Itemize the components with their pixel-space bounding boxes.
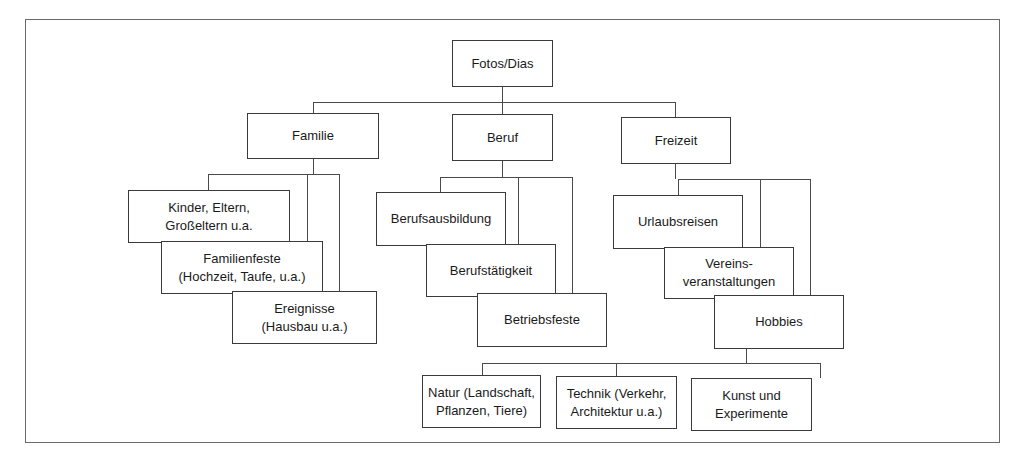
connector <box>810 179 811 295</box>
connector <box>760 179 761 247</box>
node-betriebsfeste: Betriebsfeste <box>477 293 607 347</box>
node-berufstaetigkeit: Berufstätigkeit <box>426 244 556 297</box>
connector <box>820 363 821 378</box>
connector <box>616 363 617 376</box>
connector <box>307 174 308 241</box>
connector <box>678 179 811 180</box>
node-ereignisse: Ereignisse (Hausbau u.a.) <box>232 291 377 344</box>
connector <box>313 158 314 174</box>
connector <box>518 177 519 244</box>
connector <box>746 348 747 363</box>
connector <box>502 161 503 177</box>
node-berufsausbildung: Berufsausbildung <box>376 192 506 246</box>
connector <box>482 363 821 364</box>
connector <box>675 102 676 117</box>
node-kunst: Kunst und Experimente <box>691 378 812 431</box>
node-familienfeste: Familienfeste (Hochzeit, Taufe, u.a.) <box>161 241 323 294</box>
connector <box>313 102 675 103</box>
node-technik: Technik (Verkehr, Architektur u.a.) <box>556 376 677 429</box>
connector <box>208 174 209 190</box>
connector <box>208 174 340 175</box>
node-natur: Natur (Landschaft, Pflanzen, Tiere) <box>422 375 541 428</box>
node-hobbies: Hobbies <box>714 295 844 349</box>
connector <box>675 163 676 179</box>
node-vereinsveranstaltungen: Vereins- veranstaltungen <box>664 247 794 299</box>
connector <box>440 177 441 192</box>
node-beruf: Beruf <box>452 114 553 161</box>
node-fotos-dias: Fotos/Dias <box>452 40 553 87</box>
connector <box>339 174 340 291</box>
connector <box>440 177 573 178</box>
node-kinder-eltern: Kinder, Eltern, Großeltern u.a. <box>128 190 290 243</box>
connector <box>678 179 679 195</box>
node-familie: Familie <box>247 113 379 159</box>
connector <box>482 363 483 375</box>
connector <box>572 177 573 293</box>
connector <box>313 102 314 113</box>
node-freizeit: Freizeit <box>621 117 731 164</box>
connector <box>502 87 503 114</box>
node-urlaubsreisen: Urlaubsreisen <box>613 195 743 249</box>
